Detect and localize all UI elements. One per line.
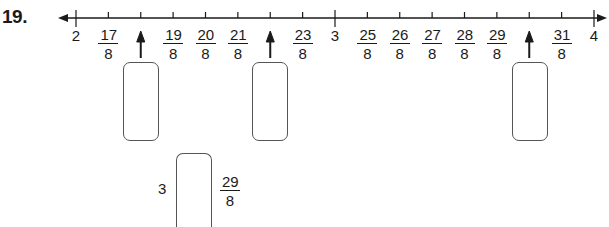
- right-arrowhead-icon: [597, 14, 607, 22]
- fraction-label: 178: [93, 27, 123, 61]
- left-arrowhead-icon: [58, 14, 68, 22]
- fraction-label: 318: [547, 27, 577, 61]
- up-arrow-icon: [137, 31, 145, 42]
- whole-number-label: 4: [579, 28, 609, 43]
- fraction-label: 258: [352, 27, 382, 61]
- fraction-label: 218: [223, 27, 253, 61]
- fraction-label: 268: [385, 27, 415, 61]
- up-arrow-icon: [266, 31, 274, 42]
- fraction-label: 238: [288, 27, 318, 61]
- whole-number-label: 3: [320, 28, 350, 43]
- fraction-label: 278: [417, 27, 447, 61]
- fraction-label: 198: [158, 27, 188, 61]
- answer-box-2[interactable]: [252, 62, 288, 141]
- whole-number-label: 2: [61, 28, 91, 43]
- comparison-symbol-box[interactable]: [176, 153, 212, 227]
- up-arrow-icon: [525, 31, 533, 42]
- comparison-right-fraction: 29 8: [215, 174, 245, 208]
- fraction-label: 298: [482, 27, 512, 61]
- fraction-label: 288: [450, 27, 480, 61]
- fraction-label: 208: [191, 27, 221, 61]
- answer-box-3[interactable]: [512, 62, 548, 141]
- answer-box-1[interactable]: [123, 62, 159, 141]
- comparison-left-value: 3: [158, 181, 166, 196]
